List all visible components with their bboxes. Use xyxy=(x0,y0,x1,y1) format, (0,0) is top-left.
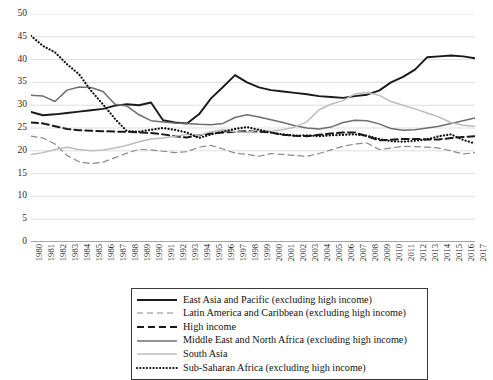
y-axis: 50454035302520151050 xyxy=(0,14,27,242)
x-tick-label: 1999 xyxy=(263,244,272,261)
x-tick-label: 1986 xyxy=(107,244,116,261)
plot-area xyxy=(31,14,475,242)
y-tick-label: 0 xyxy=(22,237,27,247)
legend-line-sample-icon xyxy=(136,335,178,347)
legend-line-sample-icon xyxy=(136,321,178,333)
x-tick-label: 2003 xyxy=(311,244,320,261)
y-tick-label: 50 xyxy=(18,9,28,19)
y-tick-label: 10 xyxy=(18,192,28,202)
x-tick-label: 1987 xyxy=(119,244,128,261)
legend-line-sample-icon xyxy=(136,348,178,360)
legend-item[interactable]: South Asia xyxy=(136,347,421,361)
x-axis: 1980198119821983198419851986198719881989… xyxy=(31,244,475,284)
x-tick-label: 1990 xyxy=(155,244,164,261)
legend-label: Sub-Saharan Africa (excluding high incom… xyxy=(183,363,366,373)
x-tick-label: 2017 xyxy=(479,244,488,261)
series-lines xyxy=(31,14,475,242)
legend-line-sample-icon xyxy=(136,362,178,374)
x-tick-label: 2006 xyxy=(347,244,356,261)
x-tick-label: 1998 xyxy=(251,244,260,261)
x-tick-label: 1982 xyxy=(59,244,68,261)
legend-label: South Asia xyxy=(183,349,227,359)
x-tick-label: 1995 xyxy=(215,244,224,261)
x-tick-label: 1981 xyxy=(47,244,56,261)
x-tick-label: 1980 xyxy=(35,244,44,261)
legend-label: Latin America and Caribbean (excluding h… xyxy=(183,308,406,318)
x-tick-label: 2004 xyxy=(323,244,332,261)
legend-item[interactable]: High income xyxy=(136,320,421,334)
x-tick-label: 1997 xyxy=(239,244,248,261)
x-tick-label: 2012 xyxy=(419,244,428,261)
y-tick-label: 40 xyxy=(18,55,28,65)
x-tick-label: 2002 xyxy=(299,244,308,261)
x-tick-label: 1993 xyxy=(191,244,200,261)
x-tick-label: 1991 xyxy=(167,244,176,261)
legend-item[interactable]: East Asia and Pacific (excluding high in… xyxy=(136,293,421,307)
y-tick-label: 35 xyxy=(18,78,28,88)
legend-label: East Asia and Pacific (excluding high in… xyxy=(183,295,372,305)
x-tick-label: 1983 xyxy=(71,244,80,261)
x-tick-label: 2014 xyxy=(443,244,452,261)
y-tick-label: 20 xyxy=(18,146,28,156)
x-tick-label: 1994 xyxy=(203,244,212,261)
x-tick-label: 2016 xyxy=(467,244,476,261)
x-tick-label: 1996 xyxy=(227,244,236,261)
legend-item[interactable]: Middle East and North Africa (excluding … xyxy=(136,334,421,348)
legend-item[interactable]: Sub-Saharan Africa (excluding high incom… xyxy=(136,361,421,375)
y-tick-label: 25 xyxy=(18,123,28,133)
x-tick-label: 2011 xyxy=(407,244,416,261)
x-tick-label: 2010 xyxy=(395,244,404,261)
legend-line-sample-icon xyxy=(136,294,178,306)
y-tick-label: 5 xyxy=(22,214,27,224)
x-tick-label: 1992 xyxy=(179,244,188,261)
x-tick-label: 1985 xyxy=(95,244,104,261)
legend-line-sample-icon xyxy=(136,307,178,319)
x-tick-label: 2009 xyxy=(383,244,392,261)
x-tick-label: 2007 xyxy=(359,244,368,261)
chart-legend: East Asia and Pacific (excluding high in… xyxy=(131,288,428,380)
x-tick-label: 1984 xyxy=(83,244,92,261)
x-tick-label: 2013 xyxy=(431,244,440,261)
y-tick-label: 45 xyxy=(18,32,28,42)
legend-label: Middle East and North Africa (excluding … xyxy=(183,335,407,345)
x-tick-label: 2001 xyxy=(287,244,296,261)
legend-label: High income xyxy=(183,322,236,332)
x-tick-label: 1989 xyxy=(143,244,152,261)
x-tick-label: 2005 xyxy=(335,244,344,261)
x-tick-label: 2000 xyxy=(275,244,284,261)
x-tick-label: 2015 xyxy=(455,244,464,261)
y-tick-label: 30 xyxy=(18,100,28,110)
legend-item[interactable]: Latin America and Caribbean (excluding h… xyxy=(136,307,421,321)
y-tick-label: 15 xyxy=(18,169,28,179)
x-tick-label: 1988 xyxy=(131,244,140,261)
x-tick-label: 2008 xyxy=(371,244,380,261)
